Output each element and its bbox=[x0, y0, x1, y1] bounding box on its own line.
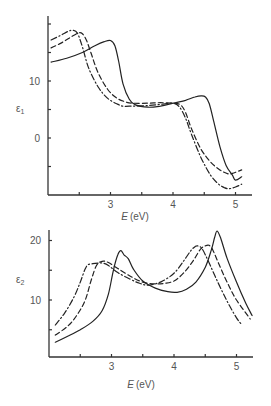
epsilon2-axes: 3452010 bbox=[30, 230, 253, 372]
epsilon2-xlabel: E(eV) bbox=[127, 379, 155, 390]
epsilon2-y-tick-label: 20 bbox=[30, 235, 42, 246]
epsilon2-x-tick-label: 4 bbox=[171, 361, 177, 372]
epsilon2-y-tick-label: 10 bbox=[30, 295, 42, 306]
dielectric-function-chart: 345100 ε1 E(eV) 3452010 ε2 E(eV) bbox=[0, 0, 271, 406]
epsilon2-curves bbox=[55, 231, 252, 342]
epsilon1-y-tick-label: 10 bbox=[29, 76, 41, 87]
epsilon2-series-dash-dot bbox=[55, 246, 242, 325]
epsilon1-y-tick-label: 0 bbox=[34, 133, 40, 144]
epsilon2-x-tick-label: 3 bbox=[109, 361, 115, 372]
epsilon1-ylabel: ε1 bbox=[16, 103, 24, 115]
epsilon2-ylabel: ε2 bbox=[16, 274, 24, 286]
epsilon1-curves bbox=[51, 30, 242, 188]
epsilon1-x-tick-label: 4 bbox=[170, 199, 176, 210]
epsilon2-series-dashed bbox=[55, 245, 250, 335]
epsilon2-panel: 3452010 ε2 E(eV) bbox=[16, 230, 253, 390]
epsilon1-xlabel: E(eV) bbox=[121, 211, 149, 222]
epsilon1-panel: 345100 ε1 E(eV) bbox=[16, 16, 252, 222]
epsilon2-x-tick-label: 5 bbox=[234, 361, 240, 372]
epsilon1-axes: 345100 bbox=[29, 16, 252, 210]
epsilon1-x-tick-label: 3 bbox=[108, 199, 114, 210]
epsilon2-series-solid bbox=[55, 231, 252, 342]
epsilon1-series-solid bbox=[51, 40, 242, 180]
epsilon1-x-tick-label: 5 bbox=[233, 199, 239, 210]
